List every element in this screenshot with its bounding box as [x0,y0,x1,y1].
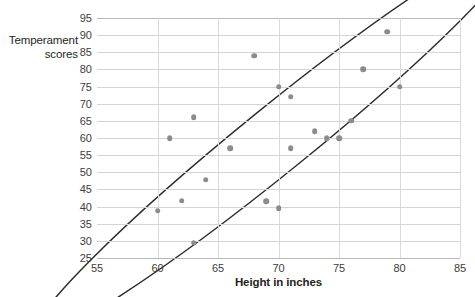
data-point [191,115,197,121]
y-axis-title: Temperament scores [0,33,78,61]
data-point [155,208,161,214]
data-point [276,205,282,211]
data-point [264,199,270,205]
data-point [276,84,282,90]
x-gridline [279,18,280,258]
data-point [167,135,173,141]
data-point [324,135,330,141]
data-point [227,145,233,151]
x-gridline [218,18,219,258]
x-axis-tick-label: 65 [212,262,224,274]
y-axis-tick-label: 65 [80,115,92,127]
y-gridline [97,258,460,259]
x-axis-tick-label: 60 [151,262,163,274]
x-gridline [460,18,461,258]
x-axis-title: Height in inches [97,276,460,288]
y-axis-tick-label: 30 [80,235,92,247]
data-point [360,67,366,73]
y-axis-tick-label: 55 [80,149,92,161]
y-axis-tick-label: 35 [80,218,92,230]
x-axis-tick-label: 75 [333,262,345,274]
y-axis-tick-label: 90 [80,29,92,41]
y-axis-tick-label: 40 [80,201,92,213]
y-axis-tick-label: 95 [80,12,92,24]
data-point [385,29,391,35]
x-gridline [158,18,159,258]
y-axis-tick-label: 50 [80,166,92,178]
x-axis-tick-label: 85 [454,262,466,274]
data-point [348,118,354,124]
y-axis-tick-label: 80 [80,63,92,75]
data-point [397,84,403,90]
data-point [288,94,294,100]
y-axis-tick-label: 85 [80,46,92,58]
scatter-chart: Temperament scores 253035404550556065707… [0,0,475,297]
y-axis-tick-label: 70 [80,98,92,110]
data-point [203,177,209,183]
data-point [312,128,318,134]
data-point [179,198,185,204]
plot-area: 2530354045505560657075808590955560657075… [97,18,460,258]
data-point [336,135,342,141]
y-axis-tick-label: 45 [80,183,92,195]
y-axis-tick-label: 60 [80,132,92,144]
y-axis-tick-label: 75 [80,81,92,93]
data-point [191,240,197,246]
x-axis-tick-label: 80 [393,262,405,274]
x-axis-tick-label: 70 [272,262,284,274]
x-gridline [400,18,401,258]
x-axis-tick-label: 55 [91,262,103,274]
data-point [252,53,258,59]
data-point [288,145,294,151]
